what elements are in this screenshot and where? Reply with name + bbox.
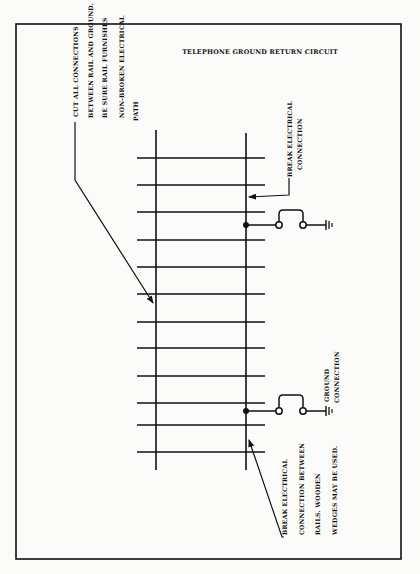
note-break-connection-top: BREAK ELECTRICAL CONNECTION — [286, 101, 303, 177]
note-break-connection-bottom: BREAK ELECTRICAL CONNECTION BETWEEN RAIL… — [281, 443, 338, 536]
svg-text:BREAK ELECTRICAL: BREAK ELECTRICAL — [281, 459, 288, 535]
svg-text:BETWEEN RAIL AND GROUND.: BETWEEN RAIL AND GROUND. — [87, 3, 94, 118]
terminal-icon — [276, 408, 282, 414]
note-cut-connections: CUT ALL CONNECTIONS BETWEEN RAIL AND GRO… — [72, 3, 139, 121]
terminal-icon — [276, 222, 282, 228]
rails — [156, 130, 246, 470]
ground-icon — [326, 406, 332, 416]
svg-text:BE SURE RAIL FURNISHES: BE SURE RAIL FURNISHES — [101, 17, 108, 118]
svg-text:PATH: PATH — [132, 101, 139, 121]
svg-text:GROUND: GROUND — [323, 368, 330, 402]
svg-text:CONNECTION: CONNECTION — [296, 118, 303, 170]
svg-text:WEDGES MAY BE USED.: WEDGES MAY BE USED. — [331, 446, 338, 536]
leader-break-bottom — [249, 440, 284, 537]
ground-return-diagram: TELEPHONE GROUND RETURN CIRCUIT — [0, 0, 420, 574]
svg-text:CUT ALL CONNECTIONS: CUT ALL CONNECTIONS — [72, 26, 79, 117]
svg-text:RAILS. WOODEN: RAILS. WOODEN — [314, 473, 321, 535]
note-ground-connection: GROUND CONNECTION — [323, 351, 340, 403]
ground-circuit-lower — [243, 395, 332, 416]
svg-text:CONNECTION: CONNECTION — [333, 351, 340, 403]
diagram-title: TELEPHONE GROUND RETURN CIRCUIT — [182, 48, 338, 56]
ground-circuit-upper — [243, 210, 332, 230]
ground-icon — [326, 220, 332, 230]
terminal-icon — [300, 222, 306, 228]
svg-text:NON-BROKEN ELECTRICAL: NON-BROKEN ELECTRICAL — [118, 15, 125, 118]
terminal-icon — [300, 408, 306, 414]
svg-text:CONNECTION BETWEEN: CONNECTION BETWEEN — [298, 443, 305, 535]
svg-text:BREAK ELECTRICAL: BREAK ELECTRICAL — [286, 101, 293, 177]
leader-break-top — [249, 178, 289, 197]
